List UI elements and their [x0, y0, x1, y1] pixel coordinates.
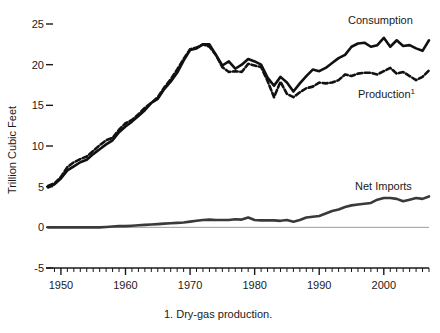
- y-tick-label: 5: [38, 181, 44, 193]
- series-line-net-imports: [48, 196, 429, 227]
- y-tick-label: 20: [32, 59, 44, 71]
- production-label-superscript: 1: [411, 87, 416, 96]
- footnote: 1. Dry-gas production.: [164, 308, 272, 320]
- y-tick-label: -5: [34, 262, 44, 274]
- y-axis-tick-labels: -50510152025: [32, 18, 44, 274]
- production-label: Production1: [358, 87, 416, 100]
- x-axis-tick-marks: [54, 268, 429, 275]
- x-axis-tick-labels: 195019601970198019902000: [49, 279, 396, 291]
- x-tick-label: 1990: [307, 279, 331, 291]
- y-axis-tick-marks: [46, 24, 53, 268]
- chart-canvas: Trillion Cubic Feet -50510152025 1950196…: [0, 0, 440, 333]
- x-tick-label: 2000: [372, 279, 396, 291]
- consumption-label: Consumption: [348, 14, 413, 26]
- x-tick-label: 1950: [49, 279, 73, 291]
- x-tick-label: 1970: [178, 279, 202, 291]
- x-tick-label: 1980: [242, 279, 266, 291]
- y-tick-label: 0: [38, 221, 44, 233]
- series-lines: [48, 38, 429, 228]
- y-tick-label: 25: [32, 18, 44, 30]
- y-axis-title: Trillion Cubic Feet: [6, 106, 18, 194]
- series-line-consumption: [48, 38, 429, 188]
- y-tick-label: 15: [32, 99, 44, 111]
- x-tick-label: 1960: [113, 279, 137, 291]
- gas-consumption-production-chart: Trillion Cubic Feet -50510152025 1950196…: [0, 0, 440, 333]
- net-imports-label: Net Imports: [355, 180, 412, 192]
- y-tick-label: 10: [32, 140, 44, 152]
